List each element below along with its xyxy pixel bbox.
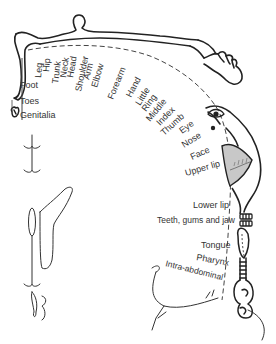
lower-lip-icon [232,188,241,214]
label-foot: Foot [20,80,39,90]
label-genitalia: Genitalia [20,110,56,120]
foot-icon [11,107,18,117]
label-upper-lip: Upper lip [184,158,221,178]
teeth-icon [240,214,252,226]
label-toes: Toes [20,96,40,106]
pharynx-icon [234,258,253,318]
nose-icon [211,126,215,130]
label-teeth: Teeth, gums and jaw [157,215,236,225]
label-tongue: Tongue [201,240,231,250]
label-pharynx: Pharynx [196,252,231,268]
label-hip: Hip [41,58,52,72]
homunculus-diagram: Foot Toes Genitalia Leg Hip Trunk Neck H… [0,0,276,344]
left-brain-figures-icon [24,135,72,320]
tongue-icon [238,228,249,258]
label-lower-lip: Lower lip [193,200,229,210]
hand-figure-icon [204,52,242,84]
label-face: Face [189,145,211,162]
upper-lip-icon [222,145,252,186]
